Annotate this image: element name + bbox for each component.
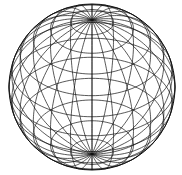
sphere-figure [0,0,182,175]
wireframe-sphere-graphic [0,0,182,175]
